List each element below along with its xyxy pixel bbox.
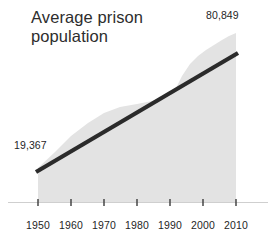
x-tick-label-1970: 1970 (92, 219, 116, 231)
x-tick-label-1950: 1950 (26, 219, 50, 231)
x-tick-label-1980: 1980 (125, 219, 149, 231)
x-tick-label-2010: 2010 (224, 219, 248, 231)
area-series-path (38, 33, 236, 202)
page-title: Average prison population (31, 8, 181, 46)
start-value-label: 19,367 (14, 139, 47, 151)
x-tick-label-1960: 1960 (59, 219, 83, 231)
x-tick-label-1990: 1990 (158, 219, 182, 231)
end-value-label: 80,849 (206, 9, 239, 21)
x-tick-label-2000: 2000 (191, 219, 215, 231)
average-prison-population-chart: Average prison population 80,849 19,367 … (0, 0, 278, 246)
